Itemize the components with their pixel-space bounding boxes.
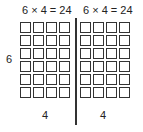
- array-cell: [106, 22, 117, 33]
- array-cell: [119, 74, 130, 85]
- array-cell: [80, 61, 91, 72]
- array-cell: [33, 22, 44, 33]
- array-cell: [20, 87, 31, 98]
- array-cell: [20, 61, 31, 72]
- array-cell: [46, 22, 57, 33]
- left-array-grid: [20, 22, 70, 98]
- array-cell: [46, 74, 57, 85]
- array-cell: [33, 48, 44, 59]
- array-cell: [80, 87, 91, 98]
- array-cell: [33, 87, 44, 98]
- array-cell: [106, 87, 117, 98]
- array-cell: [119, 87, 130, 98]
- array-cell: [59, 48, 70, 59]
- array-cell: [93, 87, 104, 98]
- array-cell: [93, 74, 104, 85]
- array-cell: [59, 61, 70, 72]
- array-cell: [59, 22, 70, 33]
- array-cell: [80, 35, 91, 46]
- array-cell: [20, 74, 31, 85]
- left-equation: 6 × 4 = 24: [22, 4, 72, 16]
- array-cell: [80, 22, 91, 33]
- array-cell: [46, 48, 57, 59]
- array-cell: [93, 48, 104, 59]
- array-cell: [80, 48, 91, 59]
- array-cell: [59, 87, 70, 98]
- array-cell: [46, 87, 57, 98]
- array-cell: [20, 48, 31, 59]
- array-cell: [93, 22, 104, 33]
- array-cell: [106, 48, 117, 59]
- array-cell: [119, 61, 130, 72]
- array-cell: [119, 22, 130, 33]
- array-cell: [106, 61, 117, 72]
- right-column-count-label: 4: [100, 109, 106, 121]
- right-equation: 6 × 4 = 24: [83, 4, 133, 16]
- array-cell: [33, 74, 44, 85]
- array-cell: [59, 35, 70, 46]
- array-cell: [20, 22, 31, 33]
- divider-line: [75, 18, 77, 125]
- array-cell: [20, 35, 31, 46]
- right-array-grid: [80, 22, 130, 98]
- array-cell: [59, 74, 70, 85]
- row-count-label: 6: [6, 53, 12, 65]
- array-cell: [46, 61, 57, 72]
- array-cell: [46, 35, 57, 46]
- array-cell: [106, 74, 117, 85]
- array-cell: [33, 35, 44, 46]
- array-cell: [93, 61, 104, 72]
- left-column-count-label: 4: [42, 109, 48, 121]
- array-cell: [80, 74, 91, 85]
- array-cell: [33, 61, 44, 72]
- array-cell: [93, 35, 104, 46]
- array-cell: [119, 48, 130, 59]
- array-cell: [119, 35, 130, 46]
- array-cell: [106, 35, 117, 46]
